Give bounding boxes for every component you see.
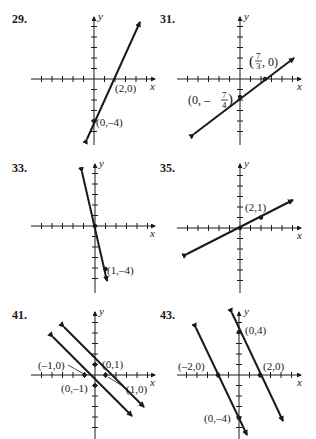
graph-33 — [31, 164, 155, 293]
x-axis-label: x — [149, 227, 155, 239]
x-axis-label: x — [296, 80, 302, 92]
y-axis-label: y — [243, 10, 249, 22]
y-axis-label: y — [97, 10, 103, 22]
svg-text:(: ( — [249, 53, 254, 70]
y-axis-label: y — [98, 305, 104, 317]
y-axis — [237, 17, 243, 145]
point-label: (0,–1) — [61, 382, 88, 395]
svg-text:7: 7 — [222, 90, 227, 100]
y-axis-label: y — [98, 157, 104, 169]
point-label: (1,0) — [126, 383, 147, 396]
x-axis-label: x — [296, 376, 302, 388]
point-label: (2,0) — [115, 82, 136, 95]
point-label: (0,–4) — [204, 412, 231, 425]
x-axis-label: x — [296, 229, 302, 241]
point-label: (–2,0) — [178, 360, 205, 373]
svg-text:, 0): , 0) — [262, 55, 278, 69]
point-label: (2,0) — [263, 360, 284, 373]
point-label: (–1,0) — [38, 359, 65, 372]
svg-text:): ) — [228, 91, 233, 108]
point-label-7-3-0: ( 7 3 , 0) — [249, 51, 278, 71]
graph-43 — [177, 312, 301, 439]
point-label: (1,–4) — [107, 264, 134, 277]
y-axis-label: y — [243, 305, 249, 317]
graph-41 — [31, 312, 155, 439]
graph-29 — [31, 17, 155, 145]
point-label-0-neg-7-4: (0, – 7 4 ) — [188, 90, 233, 110]
svg-text:7: 7 — [256, 51, 261, 61]
y-axis-label: y — [243, 157, 249, 169]
svg-text:4: 4 — [222, 100, 227, 110]
x-axis — [177, 76, 301, 82]
point-label: (0,1) — [102, 358, 123, 371]
svg-text:3: 3 — [256, 61, 261, 71]
point-label: (2,1) — [245, 201, 266, 214]
x-axis-label: x — [149, 376, 155, 388]
svg-text:(0, –: (0, – — [188, 93, 211, 107]
graphs-figure: y x (2,0) (0,–4) y x ( 7 3 , 0) (0, – 7 … — [0, 0, 316, 439]
point-label: (0,4) — [245, 324, 266, 337]
graph-31 — [177, 17, 301, 145]
point-label: (0,–4) — [96, 116, 123, 129]
x-axis — [31, 76, 155, 82]
graph-35 — [177, 164, 301, 293]
x-axis-label: x — [149, 80, 155, 92]
graph-line-lower — [53, 337, 132, 416]
